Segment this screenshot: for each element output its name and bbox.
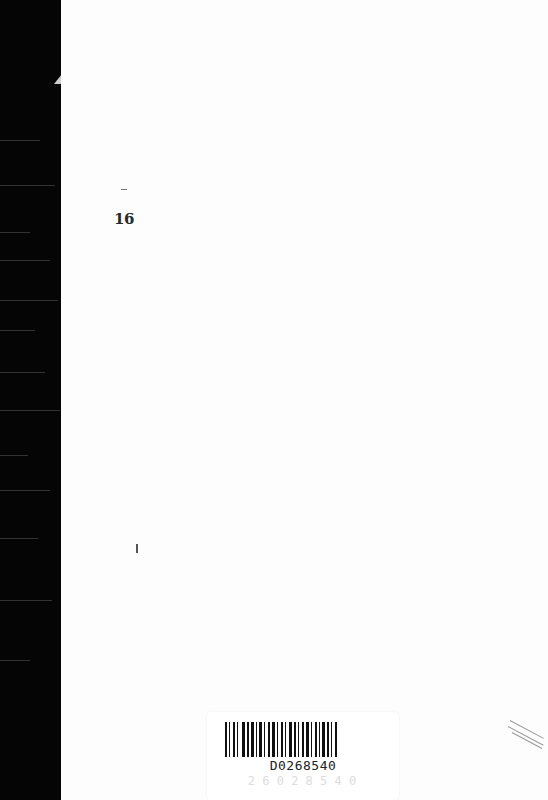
page-number: 16 [114,210,134,228]
barcode-bleedthrough: 2 6 0 2 8 5 4 0 [227,774,377,790]
scan-artifact [506,718,548,748]
barcode-label: D0268540 2 6 0 2 8 5 4 0 [207,712,399,800]
barcode-bars [225,722,375,757]
book-spine-shadow [0,0,61,800]
scan-mark [136,544,138,553]
scan-mark [121,189,127,190]
barcode-number: D0268540 [207,758,399,773]
book-page [61,0,548,800]
